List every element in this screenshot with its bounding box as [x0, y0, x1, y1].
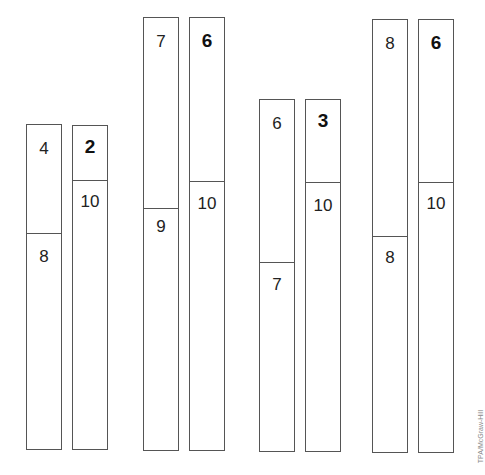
bar-top-value: 6: [190, 30, 224, 52]
bar-bottom-value: 10: [190, 194, 224, 214]
bar-bottom-value: 10: [73, 192, 107, 212]
bar-divider: [144, 208, 178, 209]
bar-bottom-value: 8: [27, 247, 61, 267]
bar-divider: [27, 233, 61, 234]
bar-bottom-value: 10: [419, 194, 453, 214]
bar-pair-4-left: 8 8: [372, 19, 408, 453]
bar-pair-2-right: 6 10: [189, 17, 225, 451]
bar-pair-4-right: 6 10: [418, 19, 454, 453]
bar-pair-2-left: 7 9: [143, 17, 179, 451]
bar-top-value: 4: [27, 139, 61, 159]
bar-bottom-value: 7: [260, 275, 294, 295]
bar-divider: [306, 182, 340, 183]
bar-pair-1-left: 4 8: [26, 124, 62, 450]
bar-bottom-value: 10: [306, 196, 340, 216]
bar-top-value: 8: [373, 34, 407, 54]
bar-divider: [260, 262, 294, 263]
bar-divider: [419, 182, 453, 183]
bar-divider: [373, 236, 407, 237]
bar-pair-3-left: 6 7: [259, 99, 295, 452]
photo-credit: TPA/McGraw-Hill: [477, 410, 484, 463]
bar-bottom-value: 9: [144, 217, 178, 237]
bar-pair-1-right: 2 10: [72, 125, 108, 450]
bar-bottom-value: 8: [373, 248, 407, 268]
bar-top-value: 7: [144, 32, 178, 52]
bar-pair-3-right: 3 10: [305, 99, 341, 452]
bar-top-value: 3: [306, 110, 340, 132]
bar-divider: [190, 181, 224, 182]
bar-divider: [73, 180, 107, 181]
bar-top-value: 2: [73, 136, 107, 158]
bar-top-value: 6: [260, 114, 294, 134]
bar-top-value: 6: [419, 32, 453, 54]
